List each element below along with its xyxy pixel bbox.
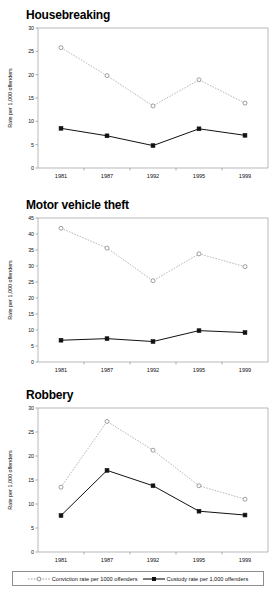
x-tick-label: 1999: [239, 367, 251, 373]
x-tick-label: 1995: [193, 173, 205, 179]
data-point-custody: [197, 127, 201, 131]
data-point-conviction: [197, 78, 201, 82]
y-tick-label: 5: [31, 525, 34, 531]
data-point-custody: [151, 484, 155, 488]
legend-item-conviction: Conviction rate per 1000 offenders: [28, 575, 138, 583]
y-tick-label: 45: [28, 215, 34, 221]
y-tick-label: 15: [28, 95, 34, 101]
data-point-conviction: [59, 226, 63, 230]
chart-title-housebreaking: Housebreaking: [0, 8, 278, 22]
series-line-custody: [61, 470, 245, 515]
solid-line-filled-square-icon: [143, 575, 165, 583]
dotted-line-open-circle-icon: [28, 575, 50, 583]
data-point-custody: [59, 338, 63, 342]
y-tick-label: 20: [28, 72, 34, 78]
chart-panel-robbery: Robbery 05101520253019811987199219951999…: [0, 388, 278, 574]
y-axis-label: Rate per 1,000 offenders: [7, 260, 13, 320]
y-tick-label: 10: [28, 327, 34, 333]
data-point-conviction: [151, 104, 155, 108]
plot-area-motor-vehicle-theft: 05101520253035404519811987199219951999Ra…: [0, 212, 278, 384]
data-point-conviction: [243, 497, 247, 501]
data-point-conviction: [59, 46, 63, 50]
data-point-custody: [243, 133, 247, 137]
y-tick-label: 25: [28, 429, 34, 435]
chart-title-motor-vehicle-theft: Motor vehicle theft: [0, 198, 278, 212]
y-tick-label: 20: [28, 295, 34, 301]
x-tick-label: 1995: [193, 367, 205, 373]
x-tick-label: 1992: [147, 557, 159, 563]
x-tick-label: 1995: [193, 557, 205, 563]
y-tick-label: 10: [28, 118, 34, 124]
data-point-custody: [151, 144, 155, 148]
data-point-custody: [243, 513, 247, 517]
series-line-conviction: [61, 228, 245, 280]
y-tick-label: 30: [28, 405, 34, 411]
y-tick-label: 25: [28, 279, 34, 285]
data-point-custody: [59, 514, 63, 518]
data-point-conviction: [151, 448, 155, 452]
y-tick-label: 0: [31, 549, 34, 555]
chart-panel-housebreaking: Housebreaking 05101520253019811987199219…: [0, 8, 278, 190]
data-point-custody: [197, 329, 201, 333]
x-tick-label: 1981: [55, 173, 67, 179]
data-point-conviction: [197, 252, 201, 256]
y-tick-label: 0: [31, 359, 34, 365]
y-tick-label: 20: [28, 453, 34, 459]
y-axis-label: Rate per 1,000 offenders: [7, 450, 13, 510]
chart-legend: Conviction rate per 1000 offenders Custo…: [12, 571, 264, 586]
y-tick-label: 40: [28, 231, 34, 237]
y-axis-label: Rate per 1,000 offenders: [7, 68, 13, 128]
y-tick-label: 25: [28, 48, 34, 54]
data-point-custody: [105, 134, 109, 138]
chart-title-robbery: Robbery: [0, 388, 278, 402]
x-tick-label: 1992: [147, 367, 159, 373]
x-tick-label: 1987: [101, 367, 113, 373]
data-point-conviction: [243, 265, 247, 269]
plot-area-robbery: 05101520253019811987199219951999Rate per…: [0, 402, 278, 574]
data-point-conviction: [243, 101, 247, 105]
data-point-custody: [105, 337, 109, 341]
data-point-conviction: [151, 279, 155, 283]
x-tick-label: 1987: [101, 173, 113, 179]
x-tick-label: 1992: [147, 173, 159, 179]
y-tick-label: 30: [28, 263, 34, 269]
x-tick-label: 1981: [55, 557, 67, 563]
x-tick-label: 1987: [101, 557, 113, 563]
data-point-conviction: [105, 74, 109, 78]
x-tick-label: 1981: [55, 367, 67, 373]
data-point-custody: [59, 126, 63, 130]
data-point-conviction: [105, 419, 109, 423]
series-line-conviction: [61, 48, 245, 106]
x-tick-label: 1999: [239, 557, 251, 563]
y-tick-label: 5: [31, 343, 34, 349]
plot-area-housebreaking: 05101520253019811987199219951999Rate per…: [0, 22, 278, 190]
line-chart-motor-vehicle-theft: 05101520253035404519811987199219951999Ra…: [0, 212, 278, 384]
data-point-custody: [105, 469, 109, 473]
series-line-custody: [61, 128, 245, 145]
y-tick-label: 35: [28, 247, 34, 253]
chart-panel-motor-vehicle-theft: Motor vehicle theft 05101520253035404519…: [0, 198, 278, 384]
data-point-custody: [197, 509, 201, 513]
legend-item-custody: Custody rate per 1,000 offenders: [143, 575, 249, 583]
legend-label-conviction: Conviction rate per 1000 offenders: [52, 576, 138, 582]
y-tick-label: 15: [28, 311, 34, 317]
legend-label-custody: Custody rate per 1,000 offenders: [167, 576, 249, 582]
data-point-custody: [151, 340, 155, 344]
line-chart-robbery: 05101520253019811987199219951999Rate per…: [0, 402, 278, 574]
x-tick-label: 1999: [239, 173, 251, 179]
data-point-custody: [243, 331, 247, 335]
y-tick-label: 30: [28, 25, 34, 31]
line-chart-housebreaking: 05101520253019811987199219951999Rate per…: [0, 22, 278, 190]
y-tick-label: 15: [28, 477, 34, 483]
data-point-conviction: [105, 246, 109, 250]
y-tick-label: 10: [28, 501, 34, 507]
data-point-conviction: [197, 484, 201, 488]
y-tick-label: 0: [31, 165, 34, 171]
y-tick-label: 5: [31, 142, 34, 148]
data-point-conviction: [59, 485, 63, 489]
